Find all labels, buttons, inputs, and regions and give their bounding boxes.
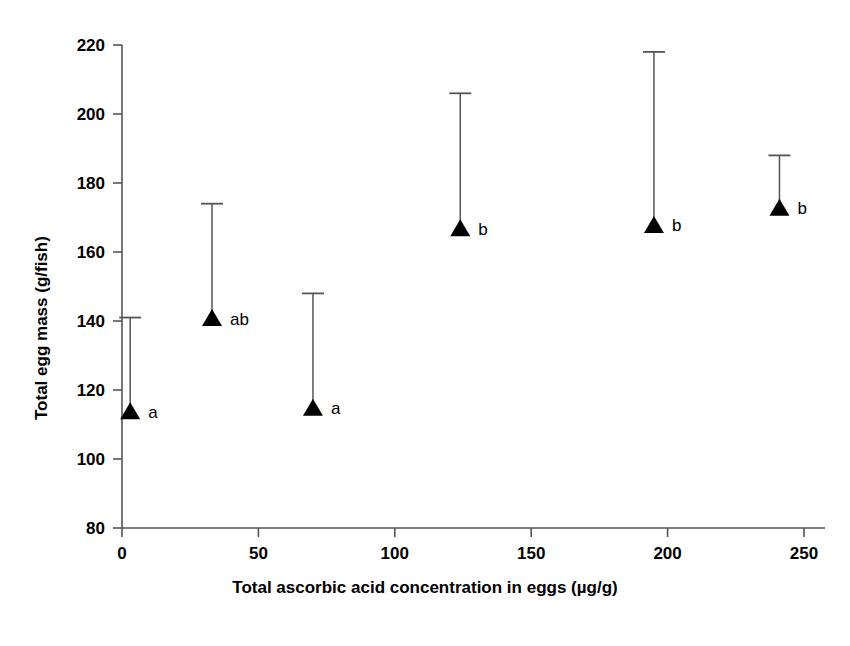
point-significance-label: a (331, 399, 341, 418)
y-tick-label-160: 160 (77, 243, 105, 262)
x-tick-label-100: 100 (381, 544, 409, 563)
data-point-4: b (449, 93, 487, 239)
y-axis-title: Total egg mass (g/fish) (32, 236, 52, 420)
point-significance-label: b (478, 220, 487, 239)
chart-figure: 80100120140160180200220 050100150200250 … (0, 0, 850, 646)
x-tick-label-250: 250 (790, 544, 818, 563)
y-tick-label-220: 220 (77, 36, 105, 55)
x-tick-label-200: 200 (653, 544, 681, 563)
point-significance-label: b (672, 216, 681, 235)
point-significance-label: b (797, 199, 806, 218)
point-significance-label: ab (230, 310, 249, 329)
y-tick-label-180: 180 (77, 174, 105, 193)
y-tick-label-200: 200 (77, 105, 105, 124)
y-tick-label-100: 100 (77, 450, 105, 469)
data-point-5: b (643, 52, 681, 236)
y-axis: 80100120140160180200220 (77, 36, 122, 538)
x-axis-title: Total ascorbic acid concentration in egg… (0, 578, 850, 598)
marker-triangle (303, 399, 323, 416)
marker-triangle (644, 216, 664, 233)
y-tick-label-120: 120 (77, 381, 105, 400)
x-axis: 050100150200250 (117, 528, 825, 563)
scatter-plot-canvas: 80100120140160180200220 050100150200250 … (0, 0, 850, 646)
marker-triangle (769, 199, 789, 216)
x-tick-label-50: 50 (249, 544, 268, 563)
data-point-1: a (119, 318, 158, 422)
marker-triangle (120, 402, 140, 419)
x-tick-label-0: 0 (117, 544, 126, 563)
marker-triangle (450, 219, 470, 236)
point-significance-label: a (148, 403, 158, 422)
y-tick-label-140: 140 (77, 312, 105, 331)
y-tick-label-80: 80 (86, 519, 105, 538)
data-point-3: a (302, 293, 341, 418)
data-point-2: ab (201, 204, 249, 329)
data-series: aababbb (119, 52, 807, 422)
data-point-6: b (768, 155, 806, 218)
x-tick-label-150: 150 (517, 544, 545, 563)
marker-triangle (202, 309, 222, 326)
